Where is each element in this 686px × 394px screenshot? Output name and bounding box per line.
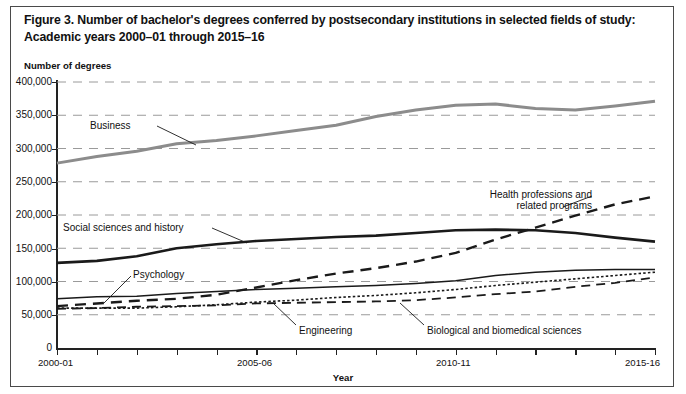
x-tick-label-2000-01: 2000-01 bbox=[38, 357, 73, 368]
x-tick-mark-2007-08 bbox=[336, 349, 337, 355]
x-axis-title: Year bbox=[0, 372, 686, 383]
series-line-social-sciences-and-history bbox=[57, 230, 655, 263]
series-label-health-professions-line2: related programs bbox=[466, 200, 592, 212]
x-tick-mark-2006-07 bbox=[296, 349, 297, 355]
x-tick-mark-2002-03 bbox=[137, 349, 138, 355]
x-tick-label-2015-16: 2015-16 bbox=[625, 357, 660, 368]
x-tick-mark-2005-06 bbox=[256, 349, 257, 355]
x-tick-mark-2013-14 bbox=[575, 349, 576, 355]
x-tick-label-2010-11: 2010-11 bbox=[436, 357, 471, 368]
series-label-biological-and-biomedical-sciences: Biological and biomedical sciences bbox=[427, 325, 582, 337]
x-tick-mark-2008-09 bbox=[376, 349, 377, 355]
x-tick-mark-2004-05 bbox=[217, 349, 218, 355]
x-tick-mark-2015-16 bbox=[655, 349, 656, 355]
series-label-social-sciences-and-history: Social sciences and history bbox=[63, 222, 184, 234]
x-tick-mark-2009-10 bbox=[416, 349, 417, 355]
x-tick-mark-2011-12 bbox=[496, 349, 497, 355]
series-line-business bbox=[57, 101, 655, 163]
x-tick-mark-2003-04 bbox=[177, 349, 178, 355]
series-label-business: Business bbox=[90, 120, 131, 132]
x-tick-label-2005-06: 2005-06 bbox=[237, 357, 272, 368]
figure-container: Figure 3. Number of bachelor's degrees c… bbox=[0, 0, 686, 394]
x-tick-mark-2001-02 bbox=[97, 349, 98, 355]
x-tick-mark-2012-13 bbox=[535, 349, 536, 355]
series-label-psychology: Psychology bbox=[133, 269, 184, 281]
x-tick-mark-2000-01 bbox=[57, 349, 58, 355]
series-label-engineering: Engineering bbox=[299, 325, 352, 337]
series-line-engineering bbox=[57, 278, 655, 309]
x-tick-mark-2010-11 bbox=[456, 349, 457, 355]
series-line-health-professions-and-related-programs bbox=[57, 196, 655, 306]
x-tick-mark-2014-15 bbox=[615, 349, 616, 355]
